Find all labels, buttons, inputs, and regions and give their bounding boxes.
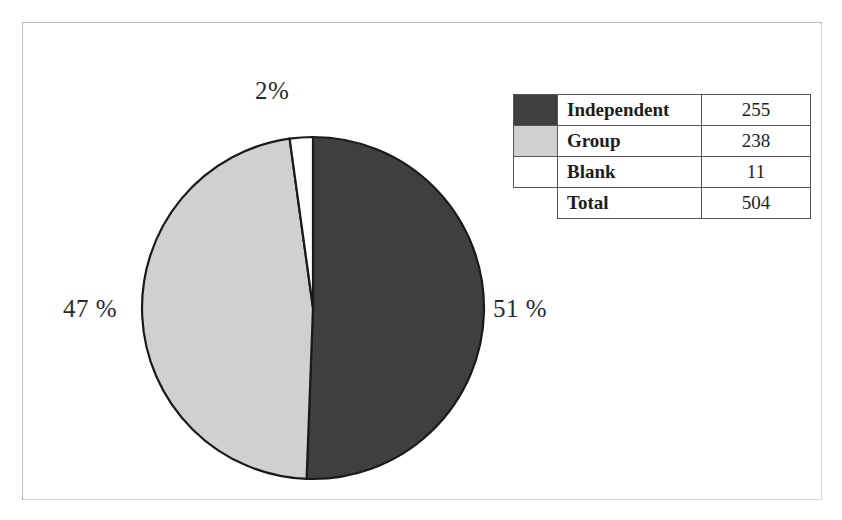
legend-label: Blank: [558, 157, 702, 188]
legend-value: 238: [702, 126, 811, 157]
legend-swatch-group: [514, 126, 558, 157]
legend-row: Group238: [514, 126, 811, 157]
pie-label-independent: 51 %: [493, 295, 547, 323]
legend-swatch-independent: [514, 95, 558, 126]
pie-label-blank: 2%: [255, 77, 289, 105]
legend-value: 504: [702, 188, 811, 219]
legend-label: Independent: [558, 95, 702, 126]
pie-slice-group[interactable]: [142, 139, 313, 479]
legend-table-body: Independent255Group238Blank11Total504: [514, 95, 811, 219]
color-swatch: [514, 95, 557, 125]
legend-row: Independent255: [514, 95, 811, 126]
legend-value: 11: [702, 157, 811, 188]
pie-chart: [133, 128, 493, 488]
color-swatch: [514, 126, 557, 156]
legend-table: Independent255Group238Blank11Total504: [513, 94, 811, 219]
color-swatch: [514, 157, 557, 187]
legend-swatch-blank: [514, 157, 558, 188]
legend-value: 255: [702, 95, 811, 126]
legend-label: Group: [558, 126, 702, 157]
pie-chart-svg: [133, 128, 493, 488]
pie-label-group: 47 %: [63, 295, 117, 323]
legend-swatch-empty: [514, 188, 558, 219]
figure-frame: 2% 47 % 51 % Independent255Group238Blank…: [22, 22, 822, 500]
pie-slice-independent[interactable]: [307, 137, 484, 479]
legend-row: Total504: [514, 188, 811, 219]
legend-label: Total: [558, 188, 702, 219]
legend-row: Blank11: [514, 157, 811, 188]
